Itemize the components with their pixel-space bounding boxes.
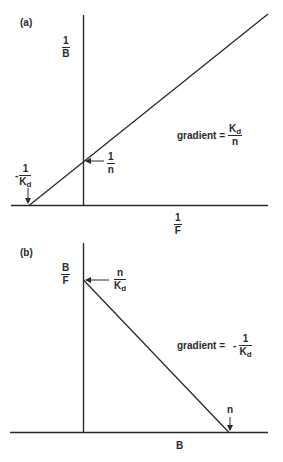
d-subscript: d [27,180,32,189]
plots-canvas [0,0,283,462]
x-intercept-denominator: Kd [19,176,31,187]
gradient-numerator: Kd [228,124,242,135]
panel-a-x-axis-label: 1 F [174,213,182,236]
panel-b-label: (b) [20,248,33,258]
d-subscript: d [236,127,241,136]
panel-b-x-intercept-label: n [227,405,233,415]
y-axis-numerator: 1 [62,36,70,47]
y-axis-denominator: B [62,48,69,59]
k-symbol: K [19,176,26,187]
y-axis-denominator: F [63,275,69,286]
y-intercept-denominator: n [108,164,114,175]
panel-b-y-axis-label: B F [61,263,70,286]
minus-sign: - [15,170,18,181]
panel-a-y-intercept-label: 1 n [107,152,115,175]
y-intercept-numerator: 1 [107,152,115,163]
x-intercept-numerator: 1 [22,164,30,175]
y-axis-numerator: B [61,263,70,274]
k-symbol: K [239,346,246,357]
panel-a-label: (a) [20,18,32,28]
panel-a-gradient-label: gradient = Kd n [177,124,242,147]
panel-b-gradient-label: gradient = - 1 Kd [177,334,252,357]
d-subscript: d [121,284,126,293]
x-axis-numerator: 1 [174,213,182,224]
minus-sign: - [233,340,236,351]
panel-a-x-intercept-label: - 1 Kd [15,164,31,187]
gradient-numerator: 1 [242,334,250,345]
panel-a-y-axis-label: 1 B [62,36,70,59]
gradient-text: gradient = [177,340,225,351]
y-intercept-denominator: Kd [114,280,126,291]
gradient-denominator: Kd [239,346,251,357]
x-axis-denominator: F [175,225,181,236]
gradient-text: gradient = [177,130,225,141]
panel-b-y-intercept-label: n Kd [114,268,126,291]
y-intercept-numerator: n [116,268,124,279]
gradient-denominator: n [232,136,238,147]
panel-b-x-axis-label: B [176,441,183,451]
panel-a-graphics [11,14,268,206]
d-subscript: d [247,350,252,359]
